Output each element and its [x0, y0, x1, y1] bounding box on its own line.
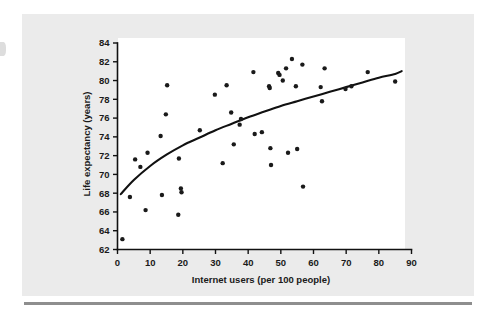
data-point	[269, 163, 273, 167]
data-point	[176, 213, 180, 217]
data-point	[165, 83, 169, 87]
y-axis-title: Life expectancy (years)	[81, 91, 92, 196]
x-tick-label: 30	[210, 257, 221, 268]
y-tick-label: 72	[99, 150, 110, 161]
data-point	[318, 85, 322, 89]
data-point	[120, 237, 124, 241]
data-point	[349, 84, 353, 88]
data-point	[138, 165, 142, 169]
x-axis-tick-labels: 0102030405060708090	[115, 257, 417, 268]
y-axis	[113, 43, 118, 250]
data-point	[179, 186, 183, 190]
data-point	[177, 156, 181, 160]
data-point	[253, 132, 257, 136]
data-point	[393, 79, 397, 83]
data-point	[260, 130, 264, 134]
scatter-chart: 626466687072747678808284 010203040506070…	[0, 0, 494, 323]
x-tick-label: 50	[276, 257, 287, 268]
data-point	[237, 122, 241, 126]
data-point	[145, 151, 149, 155]
x-axis	[118, 250, 412, 255]
data-point	[286, 151, 290, 155]
x-tick-label: 90	[406, 257, 417, 268]
data-point	[220, 161, 224, 165]
y-tick-label: 70	[99, 169, 110, 180]
data-point	[213, 92, 217, 96]
data-point	[290, 57, 294, 61]
data-point	[295, 147, 299, 151]
data-point	[229, 110, 233, 114]
y-tick-label: 80	[99, 75, 110, 86]
x-tick-label: 0	[115, 257, 120, 268]
data-point	[277, 73, 281, 77]
data-point	[322, 66, 326, 70]
data-point	[133, 157, 137, 161]
data-point	[281, 78, 285, 82]
y-axis-tick-labels: 626466687072747678808284	[99, 37, 110, 255]
data-point	[343, 87, 347, 91]
data-point	[164, 112, 168, 116]
data-point	[284, 66, 288, 70]
y-tick-label: 64	[99, 225, 110, 236]
x-axis-title: Internet users (per 100 people)	[192, 274, 330, 285]
data-point	[198, 128, 202, 132]
data-point	[268, 146, 272, 150]
data-point	[251, 70, 255, 74]
x-tick-label: 40	[243, 257, 254, 268]
data-point	[239, 117, 243, 121]
x-tick-label: 20	[178, 257, 189, 268]
data-point	[300, 62, 304, 66]
data-point	[143, 208, 147, 212]
data-point	[158, 134, 162, 138]
data-point	[179, 190, 183, 194]
y-tick-label: 78	[99, 94, 110, 105]
y-tick-label: 68	[99, 188, 110, 199]
y-tick-label: 82	[99, 56, 110, 67]
x-tick-label: 10	[145, 257, 156, 268]
y-tick-label: 66	[99, 206, 110, 217]
x-tick-label: 80	[374, 257, 385, 268]
data-point	[224, 83, 228, 87]
data-point	[232, 142, 236, 146]
x-tick-label: 70	[341, 257, 352, 268]
y-tick-label: 84	[99, 37, 110, 48]
y-tick-label: 74	[99, 131, 110, 142]
data-point	[366, 70, 370, 74]
data-point	[301, 184, 305, 188]
data-point	[160, 193, 164, 197]
x-tick-label: 60	[308, 257, 319, 268]
data-point	[294, 84, 298, 88]
page-root: 626466687072747678808284 010203040506070…	[0, 0, 494, 323]
y-tick-label: 76	[99, 112, 110, 123]
data-point	[128, 195, 132, 199]
data-point	[268, 86, 272, 90]
data-point	[320, 99, 324, 103]
y-tick-label: 62	[99, 244, 110, 255]
